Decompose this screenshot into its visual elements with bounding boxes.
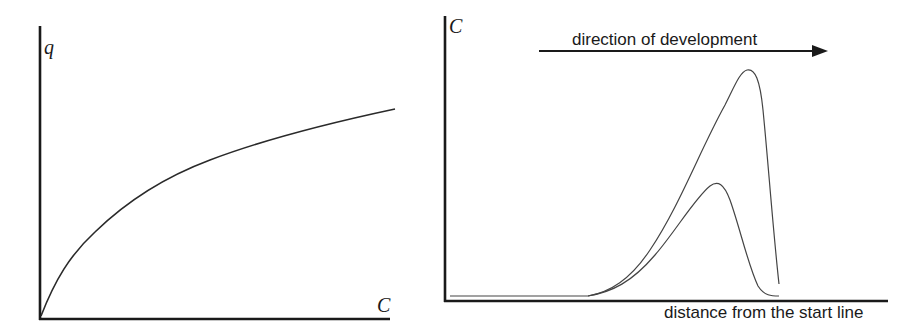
left-x-axis-label: C: [377, 294, 390, 317]
diagram-canvas: [0, 0, 917, 336]
direction-arrow-label: direction of development: [572, 30, 757, 50]
right-chart: [444, 16, 888, 302]
direction-arrow-head: [812, 45, 828, 57]
isotherm-curve: [41, 109, 395, 316]
small-band-curve: [588, 183, 779, 296]
left-chart: [39, 26, 395, 320]
right-x-axis-label: distance from the start line: [664, 303, 863, 323]
large-band-curve: [588, 70, 779, 296]
left-y-axis-label: q: [44, 36, 54, 59]
right-y-axis-label: C: [449, 15, 462, 38]
